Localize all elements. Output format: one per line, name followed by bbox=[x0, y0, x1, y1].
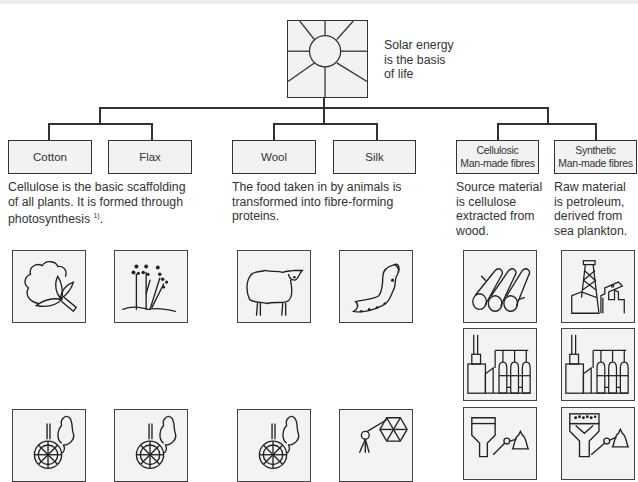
tile-wool-spinning bbox=[237, 409, 311, 482]
box-label: Synthetic bbox=[558, 144, 632, 157]
spinning-wheel-icon bbox=[115, 410, 187, 481]
desc-line: Source material bbox=[456, 180, 542, 195]
caption-line: is the basis bbox=[384, 53, 454, 68]
box-cellulosic: Cellulosic Man-made fibres bbox=[456, 140, 539, 174]
desc-line: proteins. bbox=[232, 209, 402, 224]
desc-line: is petroleum, bbox=[554, 195, 627, 210]
sun-caption: Solar energy is the basis of life bbox=[384, 38, 454, 82]
silkworm-icon bbox=[340, 251, 412, 322]
tile-flax bbox=[114, 250, 188, 323]
box-wool: Wool bbox=[232, 140, 316, 174]
desc-line: derived from bbox=[554, 209, 627, 224]
oil-derrick-icon bbox=[562, 251, 634, 322]
desc-text: photosynthesis bbox=[8, 212, 90, 226]
silk-reel-icon bbox=[340, 410, 412, 481]
tile-flax-spinning bbox=[114, 409, 188, 482]
tile-synthetic-source bbox=[561, 250, 635, 323]
box-silk: Silk bbox=[333, 140, 416, 174]
caption-line: of life bbox=[384, 67, 454, 82]
sun-icon bbox=[288, 21, 367, 97]
desc-synthetic: Raw material is petroleum, derived from … bbox=[554, 180, 627, 238]
box-synthetic: Synthetic Man-made fibres bbox=[554, 140, 637, 174]
connector-flax bbox=[151, 123, 153, 140]
desc-plant: Cellulose is the basic scaffolding of al… bbox=[8, 180, 186, 227]
chemical-plant-icon bbox=[562, 329, 634, 400]
desc-text: . bbox=[100, 212, 103, 226]
box-flax: Flax bbox=[108, 140, 192, 174]
box-label: Cellulosic bbox=[460, 144, 534, 157]
desc-line: photosynthesis 1). bbox=[8, 209, 186, 227]
box-label: Man-made fibres bbox=[558, 157, 632, 170]
connector-synthetic bbox=[595, 123, 597, 140]
box-label: Man-made fibres bbox=[460, 157, 534, 170]
desc-line: of all plants. It is formed through bbox=[8, 195, 186, 210]
desc-line: wood. bbox=[456, 224, 542, 239]
tile-cellulosic-spinning bbox=[463, 407, 537, 480]
sheep-icon bbox=[238, 251, 310, 322]
box-label: Wool bbox=[261, 150, 287, 164]
desc-line: The food taken in by animals is bbox=[232, 180, 402, 195]
tile-cellulosic-plant bbox=[463, 328, 537, 401]
connector-cotton bbox=[48, 123, 50, 140]
desc-line: is cellulose bbox=[456, 195, 542, 210]
tile-cellulosic-source bbox=[463, 250, 537, 323]
desc-line: extracted from bbox=[456, 209, 542, 224]
connector-animal-branch bbox=[273, 123, 377, 125]
spinneret-bath-icon bbox=[464, 408, 536, 479]
connector-wool bbox=[273, 123, 275, 140]
tile-wool bbox=[237, 250, 311, 323]
tile-silk bbox=[339, 250, 413, 323]
connector-plant-stem bbox=[99, 107, 101, 124]
desc-line: Cellulose is the basic scaffolding bbox=[8, 180, 186, 195]
connector-plant-branch bbox=[48, 123, 152, 125]
desc-cellulosic: Source material is cellulose extracted f… bbox=[456, 180, 542, 238]
caption-line: Solar energy bbox=[384, 38, 454, 53]
tile-cotton bbox=[12, 250, 86, 323]
box-label: Flax bbox=[139, 150, 161, 164]
box-label: Cotton bbox=[33, 150, 67, 164]
connector-manmade-branch bbox=[497, 123, 596, 125]
desc-animal: The food taken in by animals is transfor… bbox=[232, 180, 402, 224]
connector-silk bbox=[376, 123, 378, 140]
tile-synthetic-spinning bbox=[561, 407, 635, 480]
spinning-wheel-icon bbox=[13, 410, 85, 481]
wood-logs-icon bbox=[464, 251, 536, 322]
melt-spinning-icon bbox=[562, 408, 634, 479]
connector-animal-stem bbox=[323, 107, 325, 124]
sun-tile bbox=[287, 20, 368, 98]
top-band bbox=[0, 0, 638, 4]
desc-line: Raw material bbox=[554, 180, 627, 195]
spinning-wheel-icon bbox=[238, 410, 310, 481]
flax-plant-icon bbox=[115, 251, 187, 322]
box-label: Silk bbox=[365, 150, 384, 164]
cotton-plant-icon bbox=[13, 251, 85, 322]
connector-manmade-stem bbox=[547, 107, 549, 124]
tile-synthetic-plant bbox=[561, 328, 635, 401]
tile-silk-reeling bbox=[339, 409, 413, 482]
connector-cellulosic bbox=[497, 123, 499, 140]
tile-cotton-spinning bbox=[12, 409, 86, 482]
desc-line: transformed into fibre-forming bbox=[232, 195, 402, 210]
desc-line: sea plankton. bbox=[554, 224, 627, 239]
chemical-plant-icon bbox=[464, 329, 536, 400]
box-cotton: Cotton bbox=[8, 140, 92, 174]
